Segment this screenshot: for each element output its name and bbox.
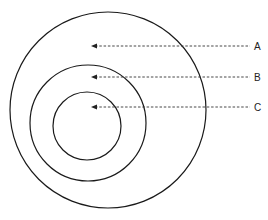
callout-a: A [91,41,261,52]
arrowhead-icon [91,75,97,80]
callout-c: C [91,102,261,113]
outer-circle [10,12,206,208]
callout-label-c: C [254,102,261,113]
callout-label-a: A [254,41,261,52]
arrowhead-icon [91,105,97,110]
inner-circle [53,92,121,160]
callout-label-b: B [254,72,261,83]
arrowhead-icon [91,44,97,49]
concentric-circle-diagram: A B C [0,0,268,220]
middle-circle [30,65,146,181]
